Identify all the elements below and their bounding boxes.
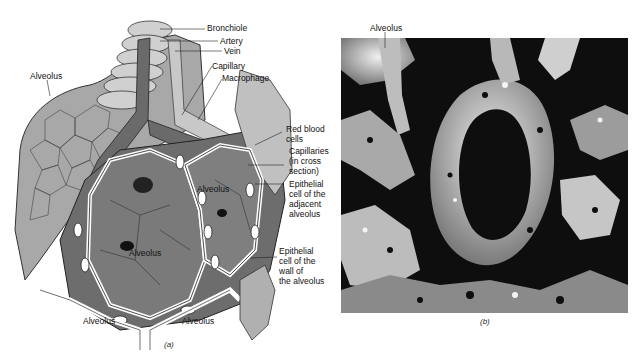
label-alveolus-bottom-left: Alveolus bbox=[83, 316, 115, 326]
label-red-blood-cells: Red blood cells bbox=[286, 124, 325, 144]
label-alveolus-center-right: Alveolus bbox=[197, 184, 229, 194]
label-epithelial-adjacent: Epithelial cell of the adjacent alveolus bbox=[289, 179, 325, 219]
label-alveolus-top-left: Alveolus bbox=[30, 71, 62, 81]
label-vein: Vein bbox=[224, 46, 241, 56]
label-capillaries-cross-section: Capillaries (in cross section) bbox=[289, 146, 329, 176]
label-alveolus-micrograph: Alveolus bbox=[370, 23, 402, 33]
caption-a: (a) bbox=[164, 340, 174, 349]
label-bronchiole: Bronchiole bbox=[207, 23, 247, 33]
panel-a-diagram: Bronchiole Artery Vein Capillary Macroph… bbox=[0, 0, 330, 359]
sem-micrograph bbox=[330, 0, 638, 359]
panel-b-micrograph: Alveolus (b) bbox=[330, 0, 638, 359]
label-epithelial-wall: Epithelial cell of the wall of the alveo… bbox=[279, 246, 324, 286]
label-alveolus-center: Alveolus bbox=[129, 248, 161, 258]
label-alveolus-bottom-right: Alveolus bbox=[182, 316, 214, 326]
label-capillary: Capillary bbox=[212, 61, 245, 71]
caption-b: (b) bbox=[480, 317, 490, 326]
label-macrophage: Macrophage bbox=[222, 73, 269, 83]
label-artery: Artery bbox=[220, 36, 243, 46]
alveoli-illustration bbox=[0, 0, 330, 359]
